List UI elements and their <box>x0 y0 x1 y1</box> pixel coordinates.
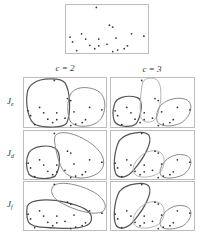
data-point <box>117 115 119 117</box>
data-point <box>75 175 77 177</box>
data-point <box>56 112 58 114</box>
data-point <box>47 221 49 223</box>
data-point <box>64 169 66 171</box>
data-point <box>121 227 123 229</box>
data-point <box>39 107 41 109</box>
data-point <box>39 159 41 161</box>
data-point <box>101 161 103 163</box>
data-point <box>89 159 91 161</box>
data-point <box>56 164 58 166</box>
data-point <box>139 174 141 176</box>
data-point <box>52 174 54 176</box>
data-point <box>89 44 91 46</box>
data-point <box>39 210 41 212</box>
data-point <box>98 45 100 47</box>
data-point <box>34 227 36 229</box>
data-point <box>47 118 49 120</box>
data-point <box>70 177 72 179</box>
data-point <box>130 215 132 217</box>
data-point <box>134 170 136 172</box>
data-point <box>95 7 97 9</box>
data-point <box>189 109 191 111</box>
data-point <box>114 110 116 112</box>
data-point <box>75 226 77 228</box>
data-point <box>126 159 128 161</box>
data-point <box>30 167 32 169</box>
data-point <box>130 164 132 166</box>
data-point <box>70 100 72 102</box>
data-point <box>131 33 133 35</box>
data-point <box>172 171 174 173</box>
data-point <box>141 184 143 186</box>
data-point <box>75 123 77 125</box>
cluster-outline <box>114 184 150 229</box>
panel-jf-c2 <box>23 181 107 231</box>
data-point <box>143 171 145 173</box>
data-point <box>157 152 159 154</box>
data-point <box>161 214 163 216</box>
cluster-outline <box>160 205 191 229</box>
data-point <box>161 111 163 113</box>
data-point <box>127 45 129 47</box>
data-point <box>27 213 29 215</box>
panel-jf-c3 <box>110 181 195 231</box>
data-point <box>143 215 145 217</box>
data-point <box>101 109 103 111</box>
data-point <box>98 38 100 40</box>
data-point <box>169 174 171 176</box>
data-point <box>172 222 174 224</box>
data-point <box>157 177 159 179</box>
data-point <box>53 133 55 135</box>
data-point <box>126 107 128 109</box>
data-point <box>161 163 163 165</box>
data-point <box>70 125 72 127</box>
data-point <box>143 119 145 121</box>
data-point <box>70 152 72 154</box>
data-point <box>73 163 75 165</box>
data-point <box>109 24 111 26</box>
data-point <box>114 162 116 164</box>
data-point <box>81 122 83 124</box>
data-point <box>157 203 159 205</box>
data-point <box>154 98 156 100</box>
data-point <box>67 150 69 152</box>
data-point <box>72 41 74 43</box>
cluster-outline <box>160 154 191 178</box>
data-point <box>134 221 136 223</box>
panel-je-c2 <box>23 77 107 128</box>
cluster-outline <box>27 200 92 228</box>
data-point <box>112 26 114 28</box>
data-point <box>70 228 72 230</box>
data-point <box>106 43 108 45</box>
data-point <box>162 226 164 228</box>
data-point <box>152 169 154 171</box>
data-point <box>117 167 119 169</box>
cluster-outline <box>113 96 141 126</box>
data-point <box>76 50 78 52</box>
data-point <box>130 112 132 114</box>
data-point <box>143 164 145 166</box>
data-point <box>157 125 159 127</box>
data-point <box>34 176 36 178</box>
data-point <box>101 212 103 214</box>
data-point <box>47 170 49 172</box>
cluster-outline <box>52 183 106 213</box>
data-point <box>43 164 45 166</box>
data-point <box>43 215 45 217</box>
data-point <box>123 48 125 50</box>
data-point <box>143 112 145 114</box>
data-point <box>53 80 55 82</box>
data-point <box>56 119 58 121</box>
panel-jd-c3 <box>110 130 195 180</box>
data-point <box>126 210 128 212</box>
data-point <box>85 38 87 40</box>
data-point <box>85 171 87 173</box>
data-point <box>154 201 156 203</box>
data-point <box>27 110 29 112</box>
data-point <box>94 48 96 50</box>
data-point <box>162 175 164 177</box>
data-point <box>56 171 58 173</box>
data-point <box>121 176 123 178</box>
data-point <box>117 49 119 51</box>
data-point <box>134 118 136 120</box>
